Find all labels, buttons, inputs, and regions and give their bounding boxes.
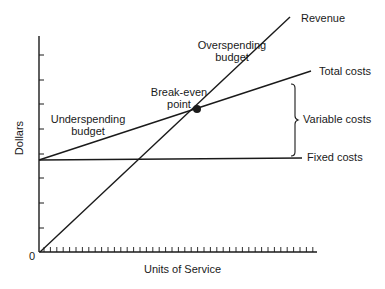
revenue-label: Revenue bbox=[301, 12, 345, 24]
y-axis-ticks bbox=[39, 55, 44, 228]
x-axis-ticks bbox=[44, 247, 313, 252]
break-even-point-label: Break-even point bbox=[146, 86, 212, 110]
fixed-costs-label: Fixed costs bbox=[307, 151, 363, 163]
variable-costs-label: Variable costs bbox=[303, 113, 371, 125]
overspending-budget-label: Overspending budget bbox=[189, 39, 275, 63]
total-costs-label: Total costs bbox=[319, 65, 371, 77]
origin-label: 0 bbox=[29, 250, 35, 262]
fixed-costs-line bbox=[39, 158, 302, 160]
x-axis-label: Units of Service bbox=[144, 263, 221, 275]
variable-costs-brace bbox=[291, 84, 298, 156]
y-axis-label: Dollars bbox=[13, 113, 25, 163]
underspending-budget-label: Underspending budget bbox=[46, 113, 130, 137]
